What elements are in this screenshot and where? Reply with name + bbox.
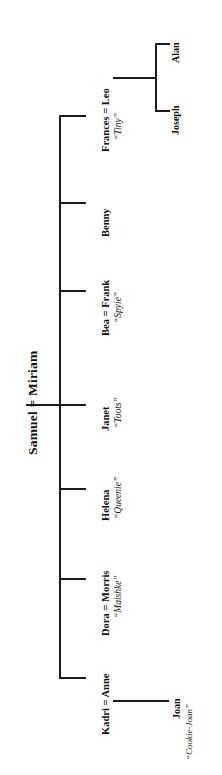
nickname-label-frances: “Tiny” bbox=[114, 113, 124, 140]
root-couple-label: Samuel = Miriam bbox=[26, 351, 40, 455]
nickname-label-morris: “Maishke” bbox=[114, 575, 124, 618]
person-label-benny: Benny bbox=[101, 208, 112, 237]
person-label-helena: Helena bbox=[101, 490, 112, 522]
child-connector-frances bbox=[59, 115, 86, 117]
person-label-joan: Joan bbox=[172, 698, 182, 719]
frances-children-connector bbox=[113, 77, 156, 79]
nickname-label-helena: “Queenie” bbox=[114, 477, 124, 519]
child-connector-joseph bbox=[155, 110, 170, 112]
family-tree-diagram: Samuel = Miriam Frances = Leo “Tiny” Ben… bbox=[0, 0, 222, 775]
person-label-joseph: Joseph bbox=[171, 106, 181, 135]
child-connector-anne bbox=[59, 677, 86, 679]
person-label-anne: Kadri = Anne bbox=[101, 674, 112, 735]
child-connector-janet bbox=[59, 404, 86, 406]
person-label-morris: Dora = Morris bbox=[101, 571, 112, 636]
child-connector-alan bbox=[155, 43, 170, 45]
person-label-frances: Frances = Leo bbox=[101, 88, 112, 152]
nickname-label-janet: “Toots” bbox=[114, 397, 124, 428]
nickname-label-frank: “Spyie” bbox=[114, 292, 124, 323]
person-label-janet: Janet bbox=[101, 407, 112, 432]
sibling-spine bbox=[59, 115, 61, 678]
nickname-label-joan: “Cookie-Joan” bbox=[185, 704, 194, 760]
child-connector-helena bbox=[59, 488, 86, 490]
person-label-alan: Alan bbox=[171, 42, 181, 63]
anne-child-connector bbox=[113, 700, 169, 702]
person-label-frank: Bea = Frank bbox=[101, 280, 112, 336]
frances-children-spine bbox=[155, 43, 157, 111]
child-connector-frank bbox=[59, 290, 86, 292]
child-connector-benny bbox=[59, 202, 86, 204]
child-connector-morris bbox=[59, 578, 86, 580]
